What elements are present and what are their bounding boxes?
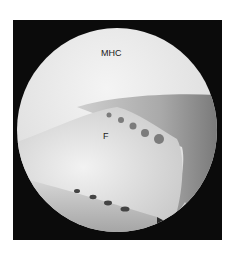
label-f: F bbox=[103, 131, 109, 141]
label-mhc: MHC bbox=[101, 48, 122, 58]
